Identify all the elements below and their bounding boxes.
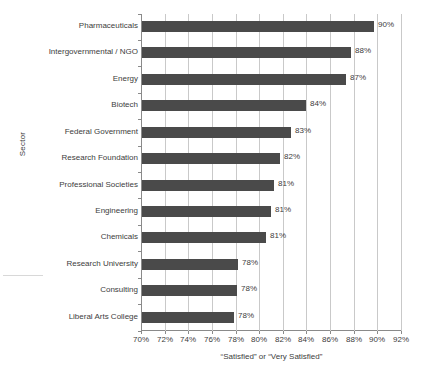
x-axis-tick-label: 72% xyxy=(157,334,173,345)
bar-value-label: 87% xyxy=(350,72,366,84)
y-axis-tick xyxy=(138,14,141,15)
category-label: Professional Societies xyxy=(2,179,138,191)
bar-value-label: 81% xyxy=(275,204,291,216)
x-axis-title: “Satisfied” or “Very Satisfied” xyxy=(141,352,402,361)
category-label: Liberal Arts College xyxy=(2,311,138,323)
bar-row[interactable]: 87% xyxy=(141,67,402,93)
category-label: Chemicals xyxy=(2,231,138,243)
category-label: Intergovernmental / NGO xyxy=(2,46,138,58)
bar-row[interactable]: 88% xyxy=(141,40,402,66)
category-label: Pharmaceuticals xyxy=(2,20,138,32)
x-axis-tick-label: 74% xyxy=(180,334,196,345)
bar-chart: Sector PharmaceuticalsIntergovernmental … xyxy=(0,0,427,379)
bar-value-label: 83% xyxy=(295,125,311,137)
bar-value-label: 78% xyxy=(238,310,254,322)
bar[interactable] xyxy=(142,232,266,243)
bar-row[interactable]: 81% xyxy=(141,225,402,251)
bar-row[interactable]: 81% xyxy=(141,199,402,225)
bar[interactable] xyxy=(142,74,346,85)
bar[interactable] xyxy=(142,285,237,296)
x-axis-tick-label: 86% xyxy=(322,334,338,345)
x-axis-tick-label: 80% xyxy=(251,334,267,345)
x-axis-tick-label: 90% xyxy=(369,334,385,345)
category-axis-labels: PharmaceuticalsIntergovernmental / NGOEn… xyxy=(0,14,138,331)
x-axis-tick-labels: 70%72%74%76%78%80%82%84%86%88%90%92% xyxy=(141,334,402,346)
category-label: Consulting xyxy=(2,284,138,296)
y-axis-tick xyxy=(138,331,141,332)
bar-row[interactable]: 81% xyxy=(141,173,402,199)
category-label: Engineering xyxy=(2,205,138,217)
bar[interactable] xyxy=(142,312,234,323)
category-label: Biotech xyxy=(2,99,138,111)
x-axis-tick-label: 70% xyxy=(133,334,149,345)
x-axis-tick-label: 82% xyxy=(275,334,291,345)
bar[interactable] xyxy=(142,47,351,58)
x-axis-tick-label: 84% xyxy=(298,334,314,345)
bar-value-label: 88% xyxy=(355,45,371,57)
bar-row[interactable]: 84% xyxy=(141,93,402,119)
x-axis-tick-label: 76% xyxy=(204,334,220,345)
bar[interactable] xyxy=(142,206,271,217)
bar[interactable] xyxy=(142,180,274,191)
bar-value-label: 78% xyxy=(242,257,258,269)
bar[interactable] xyxy=(142,21,374,32)
bar[interactable] xyxy=(142,100,306,111)
bar-value-label: 90% xyxy=(378,19,394,31)
bar-row[interactable]: 78% xyxy=(141,252,402,278)
bar-value-label: 81% xyxy=(278,178,294,190)
bar-row[interactable]: 78% xyxy=(141,278,402,304)
bar-row[interactable]: 78% xyxy=(141,305,402,331)
bar[interactable] xyxy=(142,153,280,164)
bar-value-label: 78% xyxy=(241,283,257,295)
plot-area: 90%88%87%84%83%82%81%81%81%78%78%78% xyxy=(141,14,402,331)
bar-row[interactable]: 83% xyxy=(141,120,402,146)
x-axis-tick-label: 88% xyxy=(346,334,362,345)
bar-value-label: 82% xyxy=(284,151,300,163)
category-label: Research University xyxy=(2,258,138,270)
x-axis-tick-label: 92% xyxy=(393,334,409,345)
bar-value-label: 84% xyxy=(310,98,326,110)
category-label: Federal Government xyxy=(2,126,138,138)
bar-row[interactable]: 82% xyxy=(141,146,402,172)
bar[interactable] xyxy=(142,127,291,138)
x-axis-tick-label: 78% xyxy=(228,334,244,345)
category-label: Research Foundation xyxy=(2,152,138,164)
bar-row[interactable]: 90% xyxy=(141,14,402,40)
bar[interactable] xyxy=(142,259,238,270)
category-label: Energy xyxy=(2,73,138,85)
bar-value-label: 81% xyxy=(270,230,286,242)
